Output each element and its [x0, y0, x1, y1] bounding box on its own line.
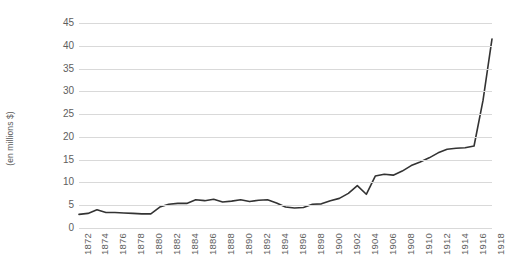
y-axis-title: (en millions $): [0, 0, 20, 277]
data-series-line: [79, 23, 492, 228]
gridline: [79, 23, 492, 24]
y-tick-label: 0: [30, 223, 74, 233]
gridline: [79, 114, 492, 115]
y-tick-label: 45: [30, 18, 74, 28]
x-tick-label: 1904: [370, 233, 380, 255]
gridline: [79, 69, 492, 70]
y-tick-label: 20: [30, 132, 74, 142]
plot-area: [79, 23, 492, 228]
x-tick-label: 1884: [190, 233, 200, 255]
x-tick-label: 1908: [406, 233, 416, 255]
x-tick-label: 1896: [298, 233, 308, 255]
x-tick-label: 1910: [424, 233, 434, 255]
x-tick-label: 1878: [136, 233, 146, 255]
x-tick-label: 1918: [496, 233, 506, 255]
chart-container: (en millions $) 051015202530354045 18721…: [0, 0, 513, 277]
y-axis-tick-labels: 051015202530354045: [30, 0, 74, 277]
gridline: [79, 46, 492, 47]
y-tick-label: 10: [30, 177, 74, 187]
gridline: [79, 160, 492, 161]
x-tick-label: 1888: [226, 233, 236, 255]
x-tick-label: 1886: [208, 233, 218, 255]
x-tick-label: 1916: [478, 233, 488, 255]
y-tick-label: 40: [30, 41, 74, 51]
gridline: [79, 137, 492, 138]
gridline: [79, 91, 492, 92]
x-tick-label: 1872: [83, 233, 93, 255]
x-tick-label: 1890: [244, 233, 254, 255]
x-tick-label: 1912: [442, 233, 452, 255]
gridline: [79, 182, 492, 183]
gridline: [79, 205, 492, 206]
x-tick-label: 1894: [280, 233, 290, 255]
y-tick-label: 35: [30, 64, 74, 74]
x-tick-label: 1898: [316, 233, 326, 255]
x-tick-label: 1892: [262, 233, 272, 255]
x-tick-label: 1900: [334, 233, 344, 255]
gridline: [79, 228, 492, 229]
x-tick-label: 1914: [460, 233, 470, 255]
x-tick-label: 1902: [352, 233, 362, 255]
x-tick-label: 1874: [100, 233, 110, 255]
y-tick-label: 25: [30, 109, 74, 119]
x-tick-label: 1876: [118, 233, 128, 255]
y-tick-label: 15: [30, 155, 74, 165]
x-tick-label: 1906: [388, 233, 398, 255]
x-tick-label: 1882: [172, 233, 182, 255]
y-tick-label: 30: [30, 86, 74, 96]
x-tick-label: 1880: [154, 233, 164, 255]
y-tick-label: 5: [30, 200, 74, 210]
